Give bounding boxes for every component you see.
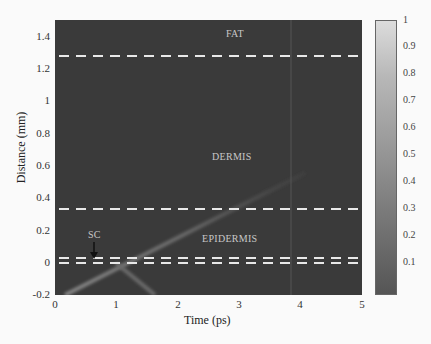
colorbar: [375, 20, 397, 295]
label-sc: SC: [88, 229, 101, 240]
colorbar-tick: 0.8: [403, 67, 416, 78]
xtick: 1: [106, 298, 126, 310]
colorbar-tick: 0.3: [403, 202, 416, 213]
ytick: 1.2: [20, 62, 50, 74]
ytick: 1: [20, 94, 50, 106]
label-epidermis: EPIDERMIS: [202, 233, 257, 244]
label-fat: FAT: [226, 28, 244, 39]
ytick: 0.2: [20, 224, 50, 236]
colorbar-tick: 0.2: [403, 229, 416, 240]
heatmap-plot-area: FAT DERMIS EPIDERMIS SC: [55, 20, 362, 295]
colorbar-tick: 1: [403, 14, 408, 25]
descending-streak: [116, 263, 155, 295]
xtick: 0: [45, 298, 65, 310]
xtick: 3: [229, 298, 249, 310]
xtick: 5: [352, 298, 372, 310]
ytick: 0.4: [20, 191, 50, 203]
x-axis-label: Time (ps): [184, 313, 231, 328]
colorbar-tick: 0.6: [403, 121, 416, 132]
label-dermis: DERMIS: [212, 151, 252, 162]
rising-streak: [65, 173, 305, 295]
colorbar-tick: 0.4: [403, 175, 416, 186]
heatmap-svg: [55, 20, 362, 295]
xtick: 4: [290, 298, 310, 310]
colorbar-tick: 0.1: [403, 256, 416, 267]
colorbar-tick: 0.7: [403, 94, 416, 105]
colorbar-tick: 0.9: [403, 40, 416, 51]
ytick: 0: [20, 256, 50, 268]
ytick: 1.4: [20, 30, 50, 42]
xtick: 2: [168, 298, 188, 310]
y-axis-label: Distance (mm): [14, 112, 29, 184]
colorbar-tick: 0.5: [403, 148, 416, 159]
